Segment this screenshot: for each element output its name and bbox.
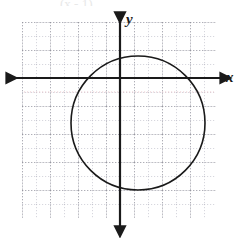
coordinate-plane-svg	[0, 0, 242, 238]
y-axis-label: y	[126, 12, 133, 27]
math-figure-circle-on-grid: (x - 1)	[0, 0, 242, 238]
x-axis-label: x	[226, 70, 234, 85]
